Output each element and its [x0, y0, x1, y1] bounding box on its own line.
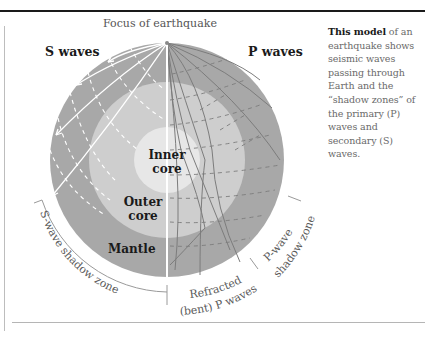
- inner-core-label: Inner core: [146, 148, 188, 176]
- s-waves-label: S waves: [45, 44, 100, 59]
- focus-of-earthquake-label: Focus of earthquake: [103, 17, 217, 30]
- outer-core-label-line2: core: [120, 209, 166, 223]
- focus-point: [165, 41, 169, 45]
- inner-core-label-line1: Inner: [146, 148, 188, 162]
- p-zone-tick-1: [250, 258, 258, 269]
- mantle-label: Mantle: [108, 242, 156, 256]
- inner-core-label-line2: core: [146, 162, 188, 176]
- p-zone-tick-2: [288, 196, 301, 201]
- p-waves-label: P waves: [248, 44, 303, 59]
- caption: This model of an earthquake shows seismi…: [328, 25, 424, 161]
- caption-body: of an earthquake shows seismic waves pas…: [328, 26, 415, 159]
- outer-core-label-line1: Outer: [120, 195, 166, 209]
- caption-lead: This model: [328, 26, 386, 37]
- outer-core-label: Outer core: [120, 195, 166, 223]
